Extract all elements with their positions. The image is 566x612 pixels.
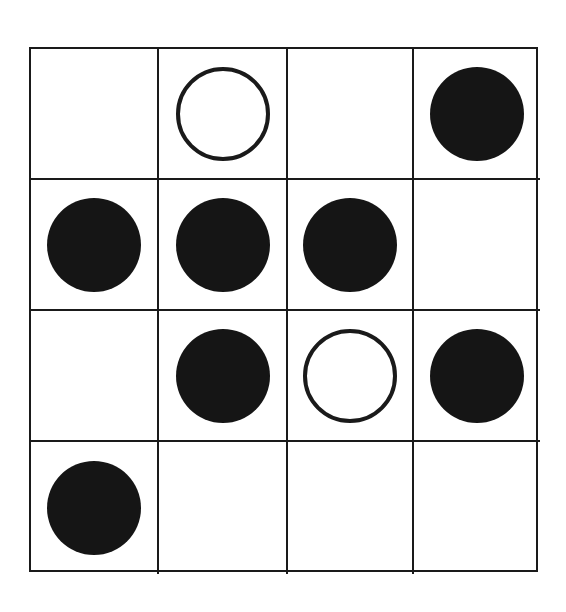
- filled-circle-icon: [47, 461, 141, 555]
- grid-cell-r1-c2: [159, 49, 288, 180]
- filled-circle-icon: [176, 329, 270, 423]
- filled-circle-icon: [176, 198, 270, 292]
- grid-cell-r2-c2: [159, 180, 288, 311]
- grid-cell-r3-c2: [159, 311, 288, 442]
- grid-cell-r4-c2: [159, 442, 288, 574]
- grid-cell-r1-c3: [288, 49, 414, 180]
- grid-cell-r1-c1: [31, 49, 159, 180]
- filled-circle-icon: [430, 67, 524, 161]
- filled-circle-icon: [303, 198, 397, 292]
- grid-cell-r2-c1: [31, 180, 159, 311]
- grid-cell-r1-c4: [414, 49, 540, 180]
- grid-cell-r4-c4: [414, 442, 540, 574]
- grid-cell-r4-c3: [288, 442, 414, 574]
- grid-cell-r3-c1: [31, 311, 159, 442]
- grid-cell-r4-c1: [31, 442, 159, 574]
- filled-circle-icon: [47, 198, 141, 292]
- hollow-circle-icon: [303, 329, 397, 423]
- grid-cell-r2-c3: [288, 180, 414, 311]
- grid-cell-r2-c4: [414, 180, 540, 311]
- grid-cell-r3-c4: [414, 311, 540, 442]
- grid-cell-r3-c3: [288, 311, 414, 442]
- hollow-circle-icon: [176, 67, 270, 161]
- puzzle-grid: [29, 47, 538, 572]
- filled-circle-icon: [430, 329, 524, 423]
